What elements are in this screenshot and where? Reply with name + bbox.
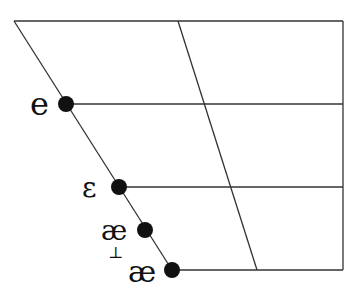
- vowel-dot-epsilon: [111, 179, 127, 195]
- raised-diacritic: ⊥: [108, 243, 123, 262]
- vowel-dot-e: [58, 96, 74, 112]
- vowel-label-epsilon: ε: [82, 171, 97, 204]
- vowel-label-e: e: [30, 85, 49, 123]
- vowel-dot-ae: [164, 262, 180, 278]
- vowel-label-ae: æ: [128, 254, 156, 289]
- vowel-chart: e ε æ ⊥ æ: [0, 0, 360, 301]
- vowel-dot-ae-raised: [137, 222, 153, 238]
- central-line: [178, 21, 257, 270]
